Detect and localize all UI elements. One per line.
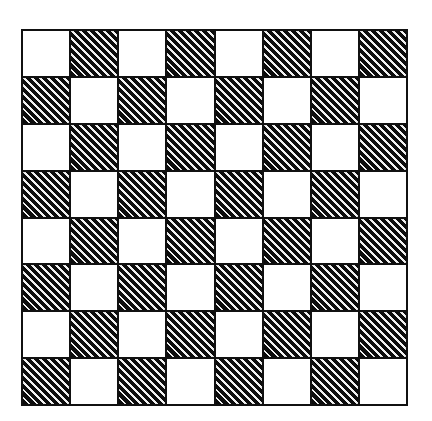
board-square-light-r1-c5 (262, 76, 312, 125)
board-square-light-r6-c2 (117, 310, 167, 359)
board-square-dark-r0-c7 (358, 29, 408, 78)
board-square-dark-r2-c5 (262, 123, 312, 172)
board-square-light-r2-c0 (21, 123, 71, 172)
board-square-dark-r2-c7 (358, 123, 408, 172)
board-square-light-r0-c2 (117, 29, 167, 78)
board-square-dark-r0-c1 (69, 29, 119, 78)
board-square-light-r0-c0 (21, 29, 71, 78)
board-square-dark-r6-c3 (165, 310, 215, 359)
board-square-light-r7-c3 (165, 357, 215, 406)
board-square-light-r4-c4 (214, 217, 264, 266)
board-square-light-r2-c6 (310, 123, 360, 172)
board-square-light-r7-c1 (69, 357, 119, 406)
board-square-dark-r3-c2 (117, 170, 167, 219)
board-square-light-r3-c1 (69, 170, 119, 219)
board-square-dark-r1-c4 (214, 76, 264, 125)
board-square-dark-r4-c5 (262, 217, 312, 266)
board-square-dark-r3-c0 (21, 170, 71, 219)
board-square-dark-r7-c6 (310, 357, 360, 406)
board-square-light-r3-c5 (262, 170, 312, 219)
board-square-light-r6-c6 (310, 310, 360, 359)
board-square-light-r2-c4 (214, 123, 264, 172)
board-square-dark-r7-c2 (117, 357, 167, 406)
board-square-light-r5-c7 (358, 263, 408, 312)
board-square-light-r4-c2 (117, 217, 167, 266)
board-square-light-r0-c4 (214, 29, 264, 78)
board-square-light-r5-c1 (69, 263, 119, 312)
board-square-dark-r0-c5 (262, 29, 312, 78)
board-square-light-r5-c5 (262, 263, 312, 312)
board-square-dark-r5-c2 (117, 263, 167, 312)
board-square-dark-r6-c5 (262, 310, 312, 359)
board-square-dark-r2-c1 (69, 123, 119, 172)
checkerboard-grid (22, 30, 407, 405)
board-square-dark-r5-c6 (310, 263, 360, 312)
board-square-dark-r1-c6 (310, 76, 360, 125)
board-square-dark-r5-c0 (21, 263, 71, 312)
board-square-light-r1-c3 (165, 76, 215, 125)
board-square-dark-r6-c7 (358, 310, 408, 359)
board-square-dark-r1-c0 (21, 76, 71, 125)
board-square-light-r5-c3 (165, 263, 215, 312)
board-square-light-r3-c7 (358, 170, 408, 219)
board-square-light-r4-c6 (310, 217, 360, 266)
board-square-light-r4-c0 (21, 217, 71, 266)
board-square-dark-r3-c4 (214, 170, 264, 219)
board-square-dark-r3-c6 (310, 170, 360, 219)
board-square-light-r7-c7 (358, 357, 408, 406)
board-square-dark-r7-c4 (214, 357, 264, 406)
board-square-dark-r5-c4 (214, 263, 264, 312)
board-square-light-r6-c0 (21, 310, 71, 359)
board-square-light-r1-c7 (358, 76, 408, 125)
board-square-dark-r6-c1 (69, 310, 119, 359)
board-square-light-r7-c5 (262, 357, 312, 406)
board-square-dark-r4-c1 (69, 217, 119, 266)
board-square-dark-r2-c3 (165, 123, 215, 172)
board-square-light-r3-c3 (165, 170, 215, 219)
board-square-dark-r7-c0 (21, 357, 71, 406)
board-square-dark-r4-c3 (165, 217, 215, 266)
board-square-light-r0-c6 (310, 29, 360, 78)
board-square-dark-r1-c2 (117, 76, 167, 125)
board-square-dark-r0-c3 (165, 29, 215, 78)
board-square-dark-r4-c7 (358, 217, 408, 266)
board-square-light-r6-c4 (214, 310, 264, 359)
board-square-light-r2-c2 (117, 123, 167, 172)
board-square-light-r1-c1 (69, 76, 119, 125)
figure-canvas (0, 0, 432, 421)
